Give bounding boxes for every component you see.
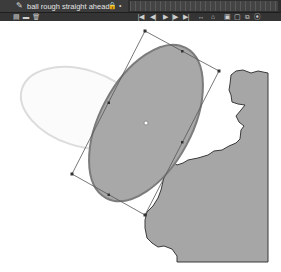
stage-drawing xyxy=(0,21,281,272)
timeline-controls: ▤ ▬ 🗑 |◀ ◀| ▶ |▶ ▶| ↔ ⌂ ▣ ▢ ⧉ ⦿ xyxy=(0,13,281,21)
step-forward-button[interactable]: |▶ xyxy=(170,13,180,21)
modify-markers-button[interactable]: ⦿ xyxy=(253,13,262,21)
transform-handle-right-edge[interactable] xyxy=(181,141,184,144)
transform-pivot-point[interactable] xyxy=(144,121,148,125)
layer-name[interactable]: ball rough straight ahead xyxy=(27,2,110,11)
motion-pencil-icon: ✎ xyxy=(14,1,24,11)
timeline-panel: ✎ ball rough straight ahead 🔒 • ▤ ▬ 🗑 |◀… xyxy=(0,0,281,21)
transform-handle-left-edge[interactable] xyxy=(108,102,111,105)
lock-icon[interactable]: 🔒 xyxy=(108,2,117,10)
play-button[interactable]: ▶ xyxy=(160,13,170,21)
transform-handle-top-edge[interactable] xyxy=(181,50,184,53)
dot-icon[interactable]: • xyxy=(119,2,121,10)
new-layer-icon[interactable]: ▤ xyxy=(12,13,20,21)
edit-multiple-frames-button[interactable]: ⧉ xyxy=(243,13,252,21)
onion-skin-button[interactable]: ▣ xyxy=(223,13,232,21)
new-folder-icon[interactable]: ▬ xyxy=(22,13,30,21)
onion-skin-outlines-button[interactable]: ▢ xyxy=(233,13,242,21)
transform-handle-right[interactable] xyxy=(218,70,221,73)
go-to-last-frame-button[interactable]: ▶| xyxy=(181,13,191,21)
transform-handle-bottom-edge[interactable] xyxy=(108,194,111,197)
center-frame-button[interactable]: ⌂ xyxy=(208,13,218,21)
layer-row[interactable]: ✎ ball rough straight ahead 🔒 • xyxy=(0,0,281,13)
delete-layer-icon[interactable]: 🗑 xyxy=(32,13,40,21)
transform-handle-bottom[interactable] xyxy=(144,214,147,217)
step-back-button[interactable]: ◀| xyxy=(148,13,158,21)
go-to-first-frame-button[interactable]: |◀ xyxy=(136,13,146,21)
stage-canvas[interactable] xyxy=(0,21,281,272)
transform-handle-left[interactable] xyxy=(71,173,74,176)
loop-button[interactable]: ↔ xyxy=(196,13,206,21)
transform-handle-top[interactable] xyxy=(144,30,147,33)
frame-track[interactable] xyxy=(130,1,278,11)
